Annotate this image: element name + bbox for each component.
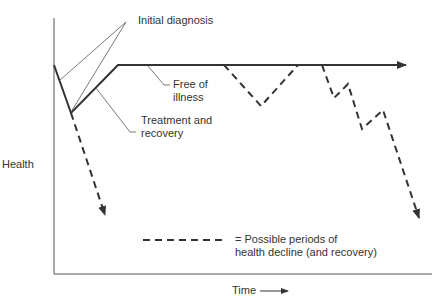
x-axis-label: Time xyxy=(232,284,256,297)
health-trajectory-diagram: Initial diagnosis Free of illness Treatm… xyxy=(0,0,448,303)
free-pointer xyxy=(148,66,170,85)
decline-paths xyxy=(71,65,419,240)
label-treatment-2: recovery xyxy=(141,127,183,140)
legend-line-1: = Possible periods of xyxy=(235,233,337,246)
label-treatment-1: Treatment and xyxy=(141,114,212,127)
label-free-of-illness-1: Free of xyxy=(173,78,208,91)
diagram-canvas xyxy=(0,0,448,303)
late-decline xyxy=(322,65,419,218)
early-decline xyxy=(71,113,105,215)
health-line xyxy=(54,65,406,113)
y-axis-label: Health xyxy=(2,158,34,171)
legend-line-2: health decline (and recovery) xyxy=(235,246,377,259)
treatment-pointer xyxy=(96,88,136,132)
dip-recovery xyxy=(224,65,298,106)
label-initial-diagnosis: Initial diagnosis xyxy=(138,14,213,27)
label-free-of-illness-2: illness xyxy=(173,91,204,104)
